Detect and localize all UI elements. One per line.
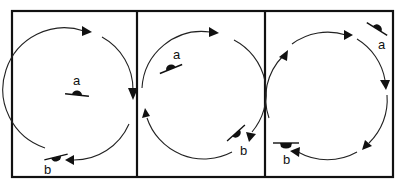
panel-1: a b bbox=[3, 26, 138, 177]
rotation-diagram: a b a b bbox=[0, 0, 404, 185]
orbit-arc bbox=[292, 32, 346, 44]
orbit-arc bbox=[298, 152, 357, 160]
arrowhead-icon bbox=[380, 80, 390, 90]
object-b-icon bbox=[273, 143, 299, 149]
label-b: b bbox=[44, 162, 51, 177]
label-b: b bbox=[240, 143, 247, 158]
arrowhead-icon bbox=[246, 132, 256, 142]
object-b-icon bbox=[227, 125, 248, 144]
arrowhead-icon bbox=[209, 27, 219, 37]
orbit-arc bbox=[234, 40, 266, 132]
arrowhead-icon bbox=[290, 147, 300, 157]
arrowhead-icon bbox=[82, 26, 92, 36]
orbit-arc bbox=[3, 28, 84, 148]
orbit-arc bbox=[266, 56, 283, 118]
object-a-icon bbox=[367, 19, 390, 36]
orbit-arc bbox=[102, 37, 133, 90]
orbit-arc bbox=[369, 95, 387, 143]
panel-3: a b bbox=[266, 19, 390, 167]
panel-2: a b bbox=[142, 27, 266, 159]
arrowhead-icon bbox=[142, 108, 150, 118]
label-b: b bbox=[283, 152, 290, 167]
orbit-arc bbox=[73, 124, 129, 160]
orbit-arc bbox=[147, 118, 232, 159]
object-a-icon bbox=[158, 60, 182, 73]
arrowhead-icon bbox=[344, 30, 353, 40]
label-a: a bbox=[173, 47, 181, 62]
arrowhead-icon bbox=[65, 155, 74, 165]
label-a: a bbox=[73, 73, 81, 88]
object-a-icon bbox=[65, 89, 89, 96]
label-a: a bbox=[378, 37, 386, 52]
